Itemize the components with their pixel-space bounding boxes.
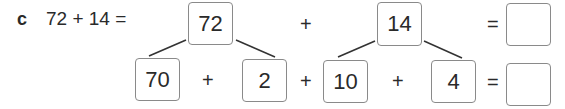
number-box-72: 72 <box>188 2 233 45</box>
plus-operator: + <box>202 69 214 92</box>
number-box-70: 70 <box>135 58 180 101</box>
plus-operator: + <box>300 13 312 36</box>
plus-operator: + <box>300 70 312 93</box>
plus-operator: + <box>392 70 404 93</box>
number-box-4: 4 <box>431 60 476 103</box>
answer-box-top[interactable] <box>506 3 551 46</box>
answer-box-bottom[interactable] <box>506 63 551 106</box>
number-box-10: 10 <box>323 60 368 103</box>
equals-operator: = <box>487 13 499 36</box>
number-box-14: 14 <box>377 2 422 46</box>
equals-operator: = <box>487 71 499 94</box>
number-box-2: 2 <box>242 59 287 102</box>
